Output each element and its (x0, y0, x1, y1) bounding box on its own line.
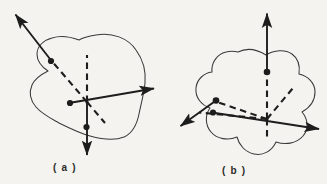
point-b-up (264, 69, 271, 76)
paper-background (0, 0, 327, 184)
figure-container: ( a ) ( b ) (0, 0, 327, 184)
point-a-up-left (48, 58, 54, 64)
panel-a-caption: ( a ) (53, 162, 77, 173)
origin-a (85, 100, 88, 103)
point-a-right (67, 100, 73, 106)
point-b-down-left (213, 97, 220, 104)
figure-canvas (0, 0, 327, 184)
point-a-down (83, 124, 89, 130)
origin-b (266, 118, 269, 121)
panel-b-caption: ( b ) (222, 165, 246, 176)
point-b-right (210, 109, 216, 115)
